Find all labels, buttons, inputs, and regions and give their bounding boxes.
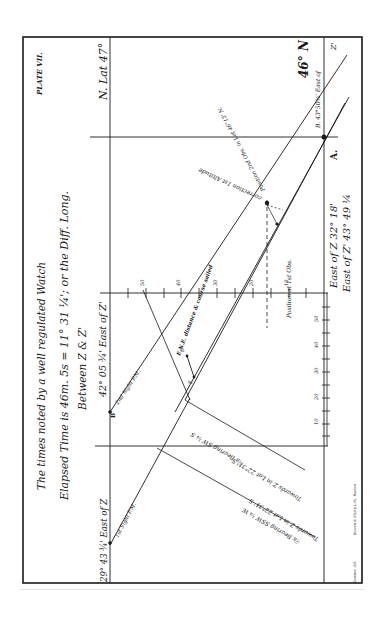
credit-right: Bowen & Sharp Lith. Boston	[353, 484, 357, 536]
navigation-plate: 50 40 30 20 10 50 40 30 20 10	[0, 0, 385, 623]
scale-ticks-vertical	[322, 307, 330, 436]
scale-labels-horizontal: 50 40 30 20 10	[139, 279, 289, 287]
a-prime-long-label: 29° 43 ¾' East of Z	[99, 498, 109, 583]
run-label: E.N.E. distance & course sailed	[175, 264, 214, 357]
point-e-marker	[193, 376, 196, 379]
scale-labels-vertical: 50 40 30 20 10	[313, 315, 319, 425]
intersection-marker	[265, 201, 269, 205]
credit-left: Sumner, del.	[353, 561, 357, 583]
plate-title: PLATE VII.	[35, 52, 44, 96]
sumner-line-outer	[185, 103, 345, 400]
svg-text:30: 30	[212, 279, 218, 286]
svg-text:20: 20	[313, 393, 319, 401]
page-bottom-rule	[20, 589, 364, 590]
d-e-link	[187, 356, 194, 377]
header-line-2: Elapsed Time is 46m. 5s = 11° 31 ¼'; or …	[58, 191, 71, 501]
sumner-line-2nd-sight	[110, 55, 347, 412]
header-line-3: Between Z & Z'	[76, 327, 88, 411]
d-label: D	[179, 348, 185, 353]
svg-text:50: 50	[313, 315, 319, 322]
point-d-marker	[186, 355, 189, 358]
towards-1-label: Towards Z in Lat 22°31' S	[230, 458, 302, 504]
second-sight-label: 2nd Sight P.M.	[113, 368, 142, 407]
svg-text:30: 30	[313, 367, 319, 374]
header-line-1: The times noted by a well regulated Watc…	[35, 262, 47, 490]
svg-text:40: 40	[175, 279, 181, 287]
svg-text:50: 50	[139, 279, 145, 286]
point-b-label: B. 43°50¾' East of	[314, 69, 322, 129]
e-label: E	[187, 380, 193, 385]
east-of-z-label: East of Z 32° 18'	[328, 203, 339, 289]
point-a-label: A.	[329, 150, 339, 161]
svg-text:10: 10	[313, 418, 319, 425]
bearing-line-3	[185, 400, 305, 470]
b-prime-long-label: 42° 05 ¾' East of Z'	[97, 301, 108, 398]
east-of-z-prime-label: East of Z' 43° 49 ¼	[341, 194, 352, 293]
lat-south-label: 46° N	[297, 39, 311, 78]
point-a-marker	[322, 135, 327, 140]
b-prime-label: B'	[109, 411, 116, 418]
lat-north-label: N. Lat 47°	[97, 43, 110, 101]
svg-text:40: 40	[313, 341, 319, 349]
first-sight-label: 1st Sight P.M.	[114, 501, 138, 539]
z-prime-label: Z'	[329, 42, 338, 51]
svg-text:20: 20	[248, 279, 254, 287]
position-1st-obs-marker	[275, 222, 278, 225]
position-1st-obs-label: Position at 1st Obs.	[285, 259, 292, 319]
